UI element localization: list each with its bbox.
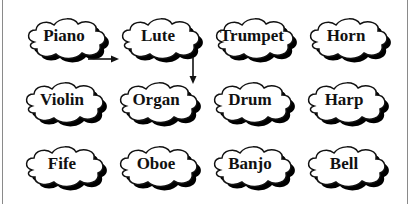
cloud-label: Fife bbox=[20, 142, 104, 186]
cloud-label: Oboe bbox=[114, 142, 198, 186]
cloud-trumpet: Trumpet bbox=[210, 14, 300, 64]
cloud-label: Trumpet bbox=[210, 14, 294, 58]
cloud-label: Lute bbox=[116, 14, 200, 58]
cloud-label: Violin bbox=[20, 78, 104, 122]
cloud-label: Horn bbox=[304, 14, 388, 58]
cloud-label: Organ bbox=[114, 78, 198, 122]
cloud-horn: Horn bbox=[304, 14, 394, 64]
cloud-oboe: Oboe bbox=[114, 142, 204, 192]
cloud-label: Drum bbox=[208, 78, 292, 122]
cloud-organ: Organ bbox=[114, 78, 204, 128]
cloud-label: Harp bbox=[302, 78, 386, 122]
cloud-lute: Lute bbox=[116, 14, 206, 64]
cloud-drum: Drum bbox=[208, 78, 298, 128]
cloud-label: Banjo bbox=[208, 142, 292, 186]
cloud-harp: Harp bbox=[302, 78, 392, 128]
cloud-label: Piano bbox=[22, 14, 106, 58]
cloud-piano: Piano bbox=[22, 14, 112, 64]
cloud-fife: Fife bbox=[20, 142, 110, 192]
cloud-banjo: Banjo bbox=[208, 142, 298, 192]
cloud-bell: Bell bbox=[302, 142, 392, 192]
cloud-label: Bell bbox=[302, 142, 386, 186]
cloud-violin: Violin bbox=[20, 78, 110, 128]
